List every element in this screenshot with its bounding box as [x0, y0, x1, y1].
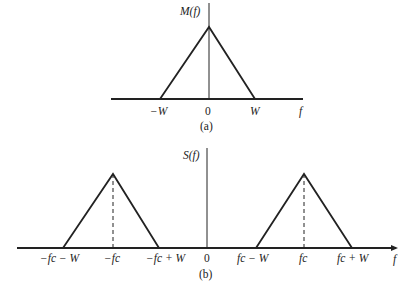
a-caption: (a)	[200, 120, 213, 133]
b-tick-neg-fc-plus-w: −fc + W	[146, 252, 187, 265]
b-left-triangle	[63, 174, 159, 248]
b-tick-neg-fc: −fc	[104, 252, 120, 265]
b-y-label: S(f)	[183, 149, 200, 162]
b-tick-fc-plus-w: fc + W	[337, 252, 370, 265]
b-x-label: f	[393, 253, 398, 266]
spectrum-diagram: M(f) −W 0 W f (a) S(f) −fc − W −fc −fc +…	[0, 0, 414, 293]
b-tick-neg-fc-minus-w: −fc − W	[40, 252, 81, 265]
a-tick-neg-w: −W	[150, 105, 169, 117]
panel-b: S(f) −fc − W −fc −fc + W 0 fc − W fc fc …	[17, 148, 398, 281]
b-tick-zero: 0	[204, 252, 210, 264]
b-tick-fc-minus-w: fc − W	[237, 252, 270, 265]
a-x-label: f	[299, 105, 304, 118]
b-caption: (b)	[199, 268, 213, 281]
a-tick-w: W	[250, 105, 261, 117]
a-y-label: M(f)	[179, 5, 201, 18]
b-axis-arrowhead	[391, 245, 398, 251]
panel-a: M(f) −W 0 W f (a)	[111, 3, 304, 133]
b-tick-fc: fc	[299, 252, 307, 265]
a-tick-zero: 0	[205, 105, 211, 117]
a-triangle-spectrum	[160, 27, 255, 99]
